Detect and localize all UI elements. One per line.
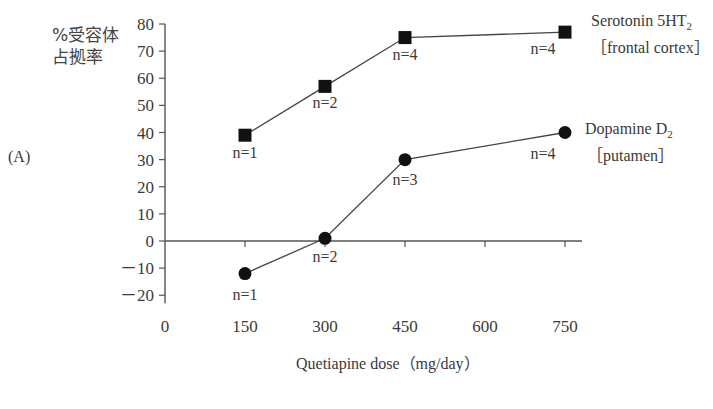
x-tick-label: 450 [392, 317, 418, 336]
circle-marker [319, 232, 332, 245]
y-tick-label: 60 [137, 69, 154, 88]
n-label: n=2 [312, 94, 337, 111]
y-tick-label: 20 [137, 178, 154, 197]
circle-marker [559, 126, 572, 139]
n-label: n=4 [530, 145, 555, 162]
n-label: n=3 [392, 171, 417, 188]
x-tick-label: 300 [312, 317, 338, 336]
y-tick-label: 50 [137, 96, 154, 115]
y-tick-label: 40 [137, 124, 154, 143]
square-marker [399, 31, 412, 44]
y-tick-label: 10 [137, 205, 154, 224]
n-label: n=1 [232, 286, 257, 303]
y-tick-label: 30 [137, 151, 154, 170]
square-marker [319, 80, 332, 93]
square-marker [559, 26, 572, 39]
n-label: n=4 [530, 40, 555, 57]
circle-marker [399, 153, 412, 166]
y-tick-label: 80 [137, 15, 154, 34]
n-label: n=1 [232, 144, 257, 161]
n-label: n=4 [392, 46, 417, 63]
y-tick-label: －20 [120, 286, 154, 305]
circle-marker [239, 267, 252, 280]
square-marker [239, 129, 252, 142]
chart-plot-area: －20－10010203040506070800150300450600750n… [0, 0, 713, 409]
x-tick-label: 750 [552, 317, 578, 336]
y-tick-label: 70 [137, 42, 154, 61]
y-tick-label: －10 [120, 259, 154, 278]
n-label: n=2 [312, 248, 337, 265]
x-tick-label: 0 [161, 317, 170, 336]
y-tick-label: 0 [146, 232, 155, 251]
x-tick-label: 150 [232, 317, 258, 336]
x-tick-label: 600 [472, 317, 498, 336]
